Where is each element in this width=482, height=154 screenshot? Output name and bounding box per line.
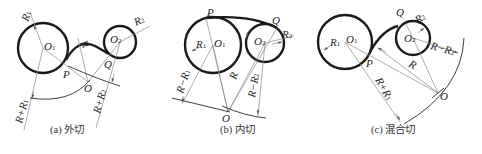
label-r: R [226, 70, 240, 81]
label-q: Q [104, 58, 112, 70]
label-r2: R2 [281, 28, 293, 40]
label-o2: O2 [110, 33, 122, 45]
label-r1: R1 [18, 8, 33, 23]
label-r-plus-r1: R+R1 [12, 97, 30, 125]
panel-b-internal-tangent: P R1 O1 Q O2 R2 R−R1 R R−R2 O (b) 内切 [172, 6, 294, 136]
label-o: O [84, 82, 92, 94]
tangent-arc [370, 26, 398, 52]
caption-b: (b) 内切 [220, 123, 255, 136]
label-q: Q [272, 14, 280, 26]
label-p: P [206, 6, 214, 18]
tangent-arc [206, 17, 277, 28]
label-r1: R1 [329, 36, 341, 48]
label-r-plus-r1: R+R1 [373, 74, 396, 102]
label-r1: R1 [195, 38, 207, 50]
caption-a: (a) 外切 [50, 124, 84, 136]
tangent-arc-figure: R1 O1 P R O Q O2 R2 R+R1 R+R2 (a) 外切 P [0, 0, 482, 154]
label-q: Q [396, 6, 404, 18]
panel-c-mixed-tangent: R1 O1 P Q O2 R2 R−R2 R R+R1 O (c) 混合切 [318, 6, 464, 136]
label-o1: O1 [346, 33, 358, 45]
label-r2: R2 [411, 10, 427, 27]
label-o1: O1 [214, 37, 226, 49]
label-o2: O2 [254, 35, 266, 47]
label-r: R [406, 57, 419, 71]
label-o1: O1 [44, 40, 56, 52]
label-p: P [62, 68, 70, 80]
caption-c: (c) 混合切 [371, 123, 415, 136]
panel-a-external-tangent: R1 O1 P R O Q O2 R2 R+R1 R+R2 (a) 外切 [12, 8, 150, 136]
label-r-minus-r2: R−R2 [429, 39, 457, 57]
label-p: P [365, 57, 373, 69]
label-o: O [222, 112, 230, 124]
label-r-minus-r1: R−R1 [173, 67, 192, 95]
label-r2: R2 [131, 12, 147, 28]
label-r-plus-r2: R+R2 [90, 87, 108, 115]
label-o: O [440, 90, 448, 102]
label-r: R [78, 37, 92, 50]
label-o2: O2 [404, 32, 416, 44]
